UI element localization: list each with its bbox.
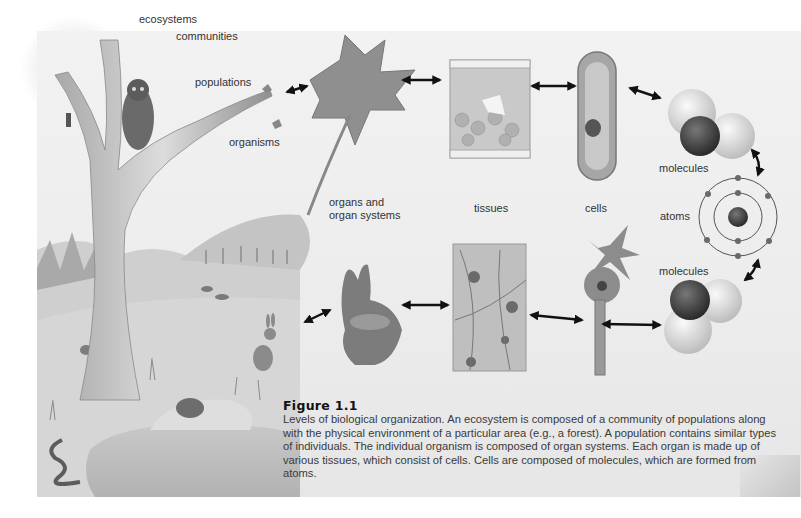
ecosystem-scene [37, 40, 310, 497]
neuron-illustration [584, 225, 640, 375]
figure-caption-block: Figure 1.1 Levels of biological organiza… [283, 398, 788, 481]
turtle [176, 398, 204, 418]
water-molecule-bottom [664, 279, 742, 354]
maple-leaf [308, 35, 415, 215]
label-cells: cells [585, 202, 607, 215]
nerve-tissue-illustration [453, 244, 526, 371]
label-organs-line2: organ systems [329, 209, 401, 222]
label-tissues: tissues [474, 202, 508, 215]
plant-cell-illustration [578, 52, 616, 180]
figure-caption: Levels of biological organization. An ec… [283, 413, 788, 481]
label-molecules-top: molecules [659, 162, 709, 175]
rabbit-head-illustration [342, 265, 403, 365]
label-ecosystems: ecosystems [139, 13, 197, 26]
plant-tissue-illustration [450, 60, 530, 158]
label-communities: communities [176, 30, 238, 43]
label-populations: populations [195, 76, 251, 89]
label-organisms: organisms [229, 136, 280, 149]
label-molecules-bottom: molecules [659, 265, 709, 278]
figure-number: Figure 1.1 [283, 398, 788, 413]
water-molecule-top [668, 89, 755, 159]
atom-model [699, 175, 777, 259]
woodpecker [66, 113, 71, 127]
label-atoms: atoms [660, 210, 690, 223]
label-organs-line1: organs and [329, 196, 384, 209]
owl [122, 79, 154, 150]
